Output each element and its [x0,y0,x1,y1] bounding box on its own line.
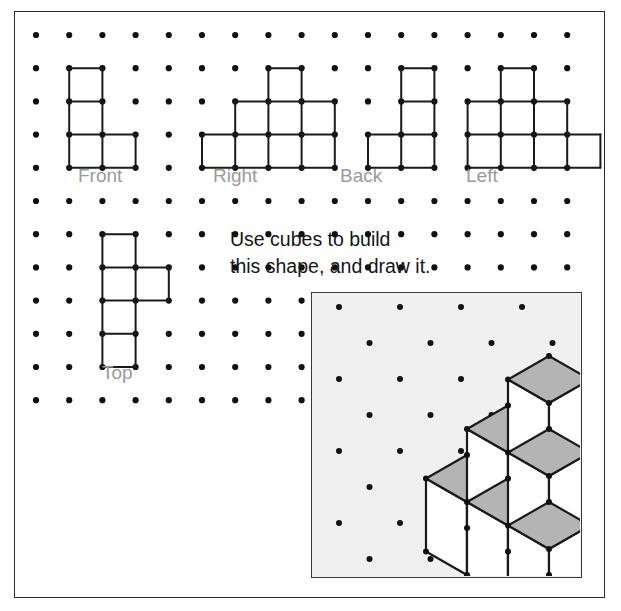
view-label-right: Right [213,165,257,187]
view-label-top: Top [102,362,133,384]
view-label-front: Front [78,165,122,187]
instruction-line-2: this shape, and draw it. [230,255,431,278]
view-label-left: Left [466,165,498,187]
isometric-drawing-panel [311,292,582,578]
isometric-cube-figure [312,293,580,576]
instruction-line-1: Use cubes to build [230,228,390,251]
worksheet-page: Front Right Back Left Top Use cubes to b… [0,0,621,611]
view-label-back: Back [340,165,382,187]
